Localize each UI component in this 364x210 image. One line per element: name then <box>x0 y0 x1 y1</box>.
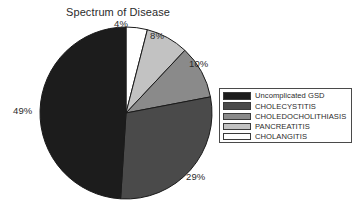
slice-label-cholangitis: 4% <box>114 18 128 29</box>
legend-item: CHOLEDOCHOLITHIASIS <box>223 111 348 121</box>
legend-swatch <box>223 92 251 100</box>
legend-item: Uncomplicated GSD <box>223 91 348 101</box>
legend-item: CHOLANGITIS <box>223 132 348 142</box>
chart-legend: Uncomplicated GSDCHOLECYSTITISCHOLEDOCHO… <box>219 88 352 143</box>
legend-item: CHOLECYSTITIS <box>223 101 348 111</box>
slice-label-pancreatitis: 8% <box>150 30 164 41</box>
legend-label: PANCREATITIS <box>255 122 310 131</box>
pie-slice <box>121 97 212 199</box>
pie-chart-figure: Spectrum of Disease 4% 8% 10% 29% 49% Un… <box>0 0 364 210</box>
slice-label-uncomplicated-gsd: 49% <box>13 105 32 116</box>
pie-slice <box>40 27 126 199</box>
slice-label-choledocholithiasis: 10% <box>189 58 208 69</box>
slice-label-cholecystitis: 29% <box>186 171 205 182</box>
legend-label: CHOLECYSTITIS <box>255 102 316 111</box>
legend-swatch <box>223 113 251 121</box>
legend-label: Uncomplicated GSD <box>255 91 325 100</box>
legend-swatch <box>223 102 251 110</box>
legend-swatch <box>223 123 251 131</box>
legend-item: PANCREATITIS <box>223 122 348 132</box>
legend-swatch <box>223 133 251 141</box>
legend-label: CHOLEDOCHOLITHIASIS <box>255 112 346 121</box>
legend-label: CHOLANGITIS <box>255 132 307 141</box>
